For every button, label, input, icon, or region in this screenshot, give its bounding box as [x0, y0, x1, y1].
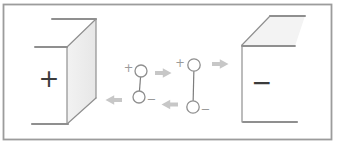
dipole1-negative-end-circle	[133, 91, 145, 103]
dipole2-negative-end-circle	[187, 101, 199, 113]
positive-plate-sign: +	[39, 64, 60, 93]
dipole1-positive-end-circle	[135, 65, 147, 77]
dipole1-plus-label: +	[124, 61, 134, 75]
dipole2-minus-label: −	[201, 102, 211, 116]
figure-canvas: + − + −	[0, 0, 339, 146]
dipoles-between-charged-plates-diagram: + − + −	[0, 0, 339, 146]
negative-plate-sign: −	[252, 68, 273, 97]
dipole1-minus-label: −	[147, 92, 157, 106]
dipole2-plus-label: +	[175, 56, 185, 70]
dipole2-positive-end-circle	[188, 59, 200, 71]
